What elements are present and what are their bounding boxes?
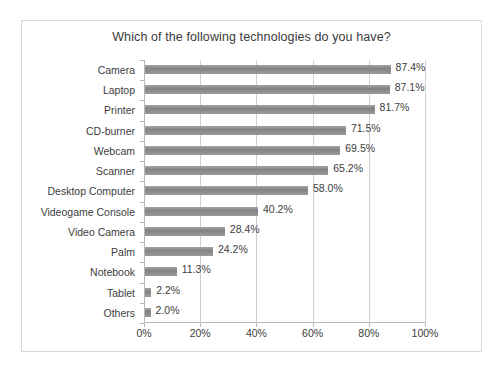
- bar-row[interactable]: 24.2%: [144, 242, 425, 262]
- bar-row[interactable]: 87.4%: [144, 60, 425, 80]
- category-axis-labels: CameraLaptopPrinterCD-burnerWebcamScanne…: [22, 60, 140, 323]
- bar[interactable]: [145, 267, 177, 276]
- x-tick-label: 100%: [412, 327, 439, 339]
- x-tick-label: 40%: [246, 327, 267, 339]
- y-tick-mark: [140, 222, 144, 223]
- chart-title: Which of the following technologies do y…: [22, 30, 481, 44]
- bar[interactable]: [145, 308, 151, 317]
- gridline-100pct: [425, 60, 426, 323]
- y-tick-mark: [140, 60, 144, 61]
- bar[interactable]: [145, 85, 390, 94]
- y-tick-mark: [140, 242, 144, 243]
- category-label-cd-burner: CD-burner: [86, 121, 135, 141]
- bar[interactable]: [145, 247, 213, 256]
- bar[interactable]: [145, 126, 346, 135]
- bar-row[interactable]: 28.4%: [144, 222, 425, 242]
- y-tick-mark: [140, 262, 144, 263]
- plot-area: 87.4%87.1%81.7%71.5%69.5%65.2%58.0%40.2%…: [144, 60, 425, 323]
- bar[interactable]: [145, 65, 391, 74]
- category-label-laptop: Laptop: [103, 80, 135, 100]
- y-tick-mark: [140, 283, 144, 284]
- y-tick-mark: [140, 202, 144, 203]
- bar[interactable]: [145, 146, 340, 155]
- bar-value-label: 24.2%: [218, 243, 248, 255]
- bar-row[interactable]: 87.1%: [144, 80, 425, 100]
- bar-value-label: 11.3%: [182, 263, 211, 275]
- category-label-scanner: Scanner: [96, 161, 135, 181]
- bar-row[interactable]: 2.2%: [144, 283, 425, 303]
- category-label-webcam: Webcam: [94, 141, 135, 161]
- category-label-others: Others: [103, 303, 135, 323]
- category-label-palm: Palm: [111, 242, 135, 262]
- category-label-video-camera: Video Camera: [68, 222, 135, 242]
- bar-row[interactable]: 40.2%: [144, 202, 425, 222]
- y-tick-mark: [140, 80, 144, 81]
- bar-value-label: 40.2%: [263, 203, 293, 215]
- category-label-camera: Camera: [98, 60, 135, 80]
- bar-value-label: 28.4%: [230, 223, 260, 235]
- bar-value-label: 2.0%: [156, 304, 180, 316]
- bar-value-label: 87.1%: [395, 81, 425, 93]
- y-tick-mark: [140, 161, 144, 162]
- y-tick-mark: [140, 100, 144, 101]
- y-tick-mark: [140, 303, 144, 304]
- category-label-desktop-computer: Desktop Computer: [47, 181, 135, 201]
- bar-row[interactable]: 2.0%: [144, 303, 425, 323]
- bar[interactable]: [145, 207, 258, 216]
- bar-row[interactable]: 81.7%: [144, 100, 425, 120]
- bar-value-label: 65.2%: [333, 162, 363, 174]
- y-tick-mark: [140, 121, 144, 122]
- x-tick-label: 0%: [136, 327, 151, 339]
- category-label-tablet: Tablet: [107, 283, 135, 303]
- figure-caption: [24, 364, 454, 374]
- bar[interactable]: [145, 186, 308, 195]
- x-tick-label: 20%: [190, 327, 211, 339]
- bar-value-label: 81.7%: [380, 101, 410, 113]
- bar-value-label: 2.2%: [156, 284, 180, 296]
- x-axis-tick-labels: 0%20%40%60%80%100%: [144, 327, 425, 345]
- bar[interactable]: [145, 166, 328, 175]
- bar-row[interactable]: 11.3%: [144, 262, 425, 282]
- x-tick-label: 60%: [302, 327, 323, 339]
- bar-row[interactable]: 71.5%: [144, 121, 425, 141]
- bar[interactable]: [145, 105, 375, 114]
- bar-value-label: 71.5%: [351, 122, 381, 134]
- bar[interactable]: [145, 288, 151, 297]
- figure-frame: Which of the following technologies do y…: [21, 20, 482, 352]
- bar-row[interactable]: 58.0%: [144, 181, 425, 201]
- bar-value-label: 58.0%: [313, 182, 343, 194]
- bar-row[interactable]: 65.2%: [144, 161, 425, 181]
- y-tick-mark: [140, 181, 144, 182]
- bar-value-label: 69.5%: [345, 142, 375, 154]
- y-tick-mark: [140, 141, 144, 142]
- category-label-videogame-console: Videogame Console: [41, 202, 135, 222]
- bar-row[interactable]: 69.5%: [144, 141, 425, 161]
- category-label-notebook: Notebook: [90, 262, 135, 282]
- x-tick-label: 80%: [358, 327, 379, 339]
- category-label-printer: Printer: [104, 100, 135, 120]
- bar-value-label: 87.4%: [396, 61, 426, 73]
- bar[interactable]: [145, 227, 225, 236]
